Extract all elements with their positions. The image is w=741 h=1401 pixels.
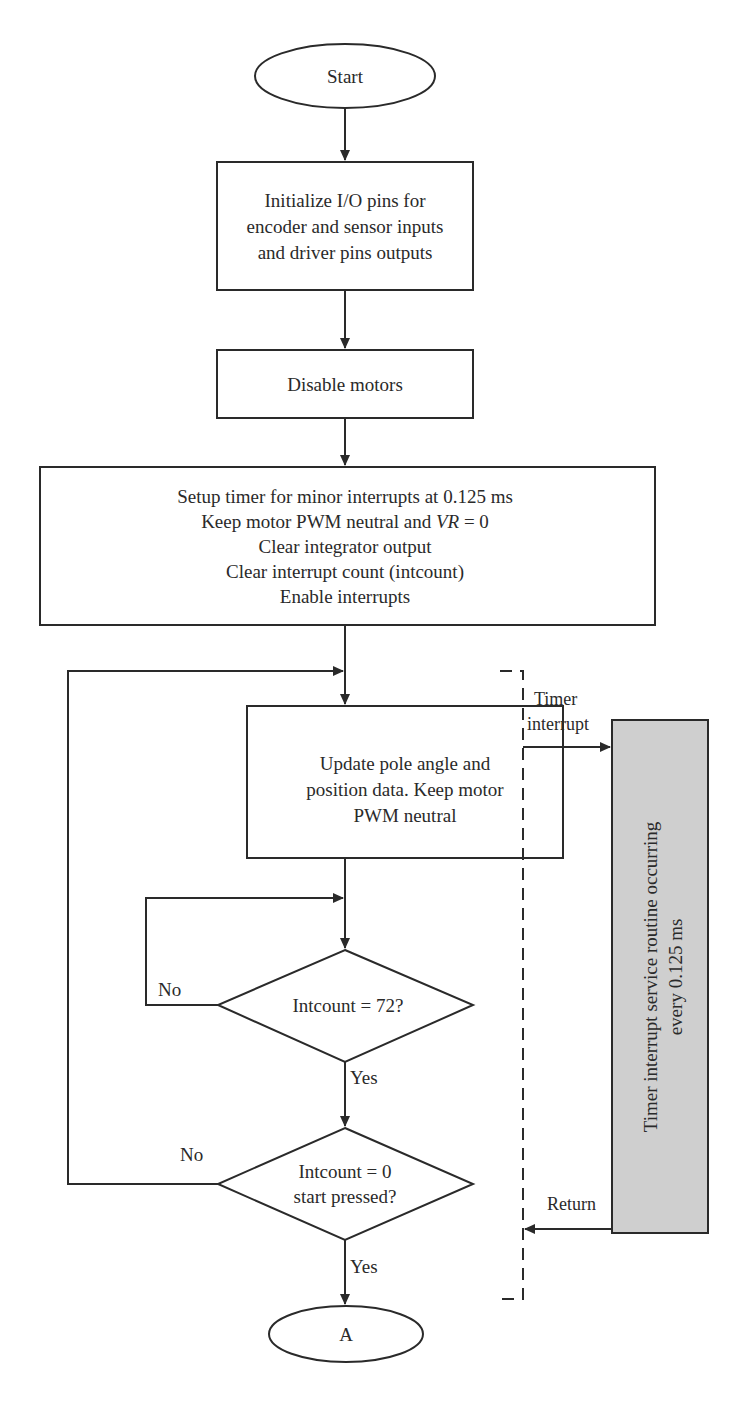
setup-line-1: Setup timer for minor interrupts at 0.12… (177, 486, 513, 507)
update-line-2: position data. Keep motor (306, 779, 504, 800)
setup-line-3: Clear integrator output (258, 536, 432, 557)
setup-line-5: Enable interrupts (280, 586, 410, 607)
decision1-yes-label: Yes (350, 1067, 378, 1088)
update-line-3: PWM neutral (354, 805, 457, 826)
update-box: Update pole angle and position data. Kee… (247, 706, 563, 858)
connector-a-label: A (339, 1324, 353, 1345)
start-label: Start (327, 66, 364, 87)
disable-motors-label: Disable motors (287, 374, 403, 395)
flowchart: Start Initialize I/O pins for encoder an… (0, 0, 741, 1401)
init-io-line-1: Initialize I/O pins for (265, 190, 427, 211)
setup-line-4: Clear interrupt count (intcount) (226, 561, 464, 583)
decision2-line-1: Intcount = 0 (298, 1161, 391, 1182)
update-line-1: Update pole angle and (320, 753, 491, 774)
timer-interrupt-label-1: Timer (534, 689, 577, 709)
start-terminal: Start (255, 44, 435, 108)
decision2-no-label: No (180, 1144, 203, 1165)
isr-line-1: Timer interrupt service routine occurrin… (640, 821, 661, 1132)
isr-line-2: every 0.125 ms (665, 919, 686, 1036)
setup-line-2: Keep motor PWM neutral and VR = 0 (201, 511, 489, 532)
decision2-line-2: start pressed? (294, 1186, 397, 1207)
init-io-line-3: and driver pins outputs (258, 242, 433, 263)
timer-interrupt-label-2: interrupt (527, 714, 589, 734)
decision1-label: Intcount = 72? (293, 995, 404, 1016)
disable-motors-box: Disable motors (217, 350, 473, 418)
return-label: Return (547, 1194, 596, 1214)
init-io-box: Initialize I/O pins for encoder and sens… (217, 162, 473, 290)
connector-a: A (269, 1306, 423, 1362)
decision-start-pressed: Intcount = 0 start pressed? (218, 1128, 473, 1240)
setup-box: Setup timer for minor interrupts at 0.12… (40, 467, 655, 625)
decision1-no-label: No (158, 979, 181, 1000)
isr-box: Timer interrupt service routine occurrin… (612, 720, 708, 1233)
init-io-line-2: encoder and sensor inputs (247, 216, 444, 237)
decision2-yes-label: Yes (350, 1256, 378, 1277)
decision-intcount-72: Intcount = 72? (218, 950, 473, 1062)
